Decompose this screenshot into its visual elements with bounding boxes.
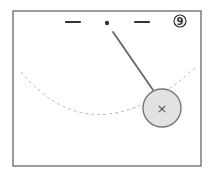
pendulum-rod <box>113 32 153 90</box>
panel-number-label: 9 <box>177 16 184 27</box>
bob-center-mark-icon: × <box>157 101 168 116</box>
pivot-point <box>105 21 109 25</box>
pendulum-diagram: × 9 <box>0 0 209 172</box>
panel-number-badge: 9 <box>174 15 186 27</box>
panel-frame <box>13 11 201 166</box>
